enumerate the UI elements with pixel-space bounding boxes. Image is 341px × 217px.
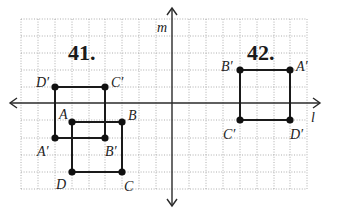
vertex-41-B <box>118 118 125 125</box>
figure-42-image <box>236 66 293 123</box>
label-42-Aprime: A′ <box>295 59 309 74</box>
problem-number-42: 42. <box>247 40 275 65</box>
coordinate-grid-diagram: m l 41. 42. D′ C′ A B A′ B′ D C B′ A′ C′… <box>0 0 341 217</box>
vertex-41-Dprime <box>51 83 58 90</box>
label-41-B: B <box>128 108 137 123</box>
label-41-Aprime: A′ <box>36 144 50 159</box>
axis-m <box>167 8 177 206</box>
vertex-42-Cprime <box>236 116 243 123</box>
vertex-42-Dprime <box>286 116 293 123</box>
axis-l <box>10 98 320 108</box>
problem-number-41: 41. <box>68 40 96 65</box>
label-42-Bprime: B′ <box>221 59 234 74</box>
label-41-D: D <box>55 177 66 192</box>
axis-label-m: m <box>157 20 167 35</box>
axis-label-l: l <box>311 110 315 125</box>
vertex-42-Bprime <box>236 66 243 73</box>
label-41-Cprime: C′ <box>111 75 124 90</box>
vertex-41-Bprime <box>101 134 108 141</box>
vertex-41-A <box>68 118 75 125</box>
vertex-41-Aprime <box>51 134 58 141</box>
vertex-41-C <box>118 168 125 175</box>
label-42-Dprime: D′ <box>289 127 304 142</box>
label-41-Dprime: D′ <box>35 75 50 90</box>
vertex-41-D <box>68 168 75 175</box>
vertex-42-Aprime <box>286 66 293 73</box>
figure-41-original <box>68 118 125 175</box>
label-42-Cprime: C′ <box>223 127 236 142</box>
vertex-41-Cprime <box>101 83 108 90</box>
label-41-Bprime: B′ <box>105 144 118 159</box>
label-41-C: C <box>124 179 134 194</box>
label-41-A: A <box>58 107 68 122</box>
